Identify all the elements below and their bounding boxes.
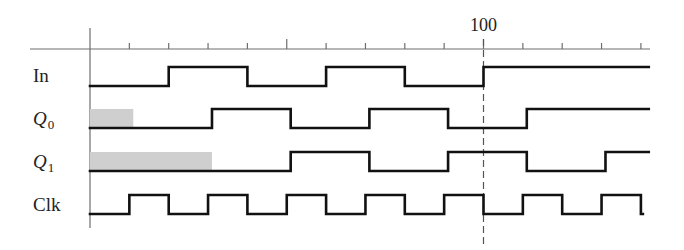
q0-waveform xyxy=(90,109,649,128)
signal-labels: InQ0Q1Clk xyxy=(33,65,61,215)
timing-diagram: 100 InQ0Q1Clk xyxy=(0,0,684,250)
clk-label: Clk xyxy=(33,194,61,215)
unknown-state-regions xyxy=(90,109,212,171)
in-label: In xyxy=(33,65,49,86)
clk-waveform xyxy=(90,195,643,214)
in-waveform xyxy=(90,67,649,86)
waveforms xyxy=(90,67,649,214)
q1-unknown-region xyxy=(90,152,212,171)
q0-label: Q0 xyxy=(33,108,54,132)
tick-label-100: 100 xyxy=(470,15,497,35)
q0-unknown-region xyxy=(90,109,133,128)
q1-label: Q1 xyxy=(33,151,54,175)
